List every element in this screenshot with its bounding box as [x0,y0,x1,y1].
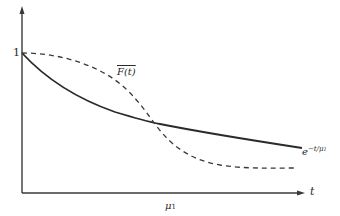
exp-sub: 1 [324,146,327,152]
exponential-curve [22,53,302,148]
y-axis-arrow-icon [20,6,25,14]
survival-label-text: F(t) [117,66,136,77]
x-axis-arrow-icon [297,191,305,196]
exponential-label: e−t/μ1 [302,146,327,157]
exp-power: −t/μ [308,145,324,153]
mu1-tick-label: μ1 [165,201,176,211]
mu-subscript: 1 [172,203,176,211]
survival-curve-dashed [22,53,296,168]
survival-label: F(t) [117,67,136,77]
chart-canvas [0,0,340,216]
y-tick-one-label: 1 [13,47,20,58]
x-axis-label: t [310,186,314,197]
